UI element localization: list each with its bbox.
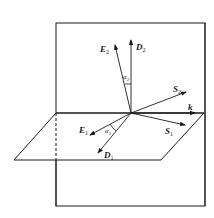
label-s2: S2 [173,84,181,95]
label-k: k [188,102,193,112]
diagram-canvas: E2 D2 S2 k S1 E1 D1 α2 α1 [0,0,214,218]
interface-diagram: E2 D2 S2 k S1 E1 D1 α2 α1 [0,0,214,218]
label-e2: E2 [99,44,109,55]
arrow-s2 [131,92,186,113]
label-d2: D2 [135,42,146,53]
label-alpha2: α2 [123,73,130,82]
